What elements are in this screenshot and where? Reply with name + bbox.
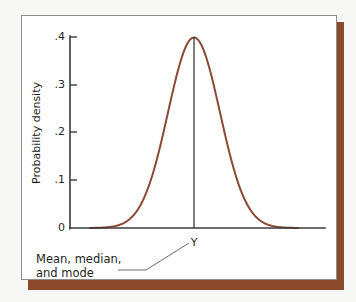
y-axis-title: Probability density xyxy=(30,82,43,184)
callout-leader-line xyxy=(118,243,189,270)
plot-canvas: .4 .3 .2 .1 0 Probability density Y Mean… xyxy=(0,0,356,302)
y-tick-label-1: .1 xyxy=(55,173,66,186)
y-tick-label-0: 0 xyxy=(58,221,65,234)
y-tick-label-2: .2 xyxy=(55,125,66,138)
callout-line-1: Mean, median, xyxy=(36,252,121,266)
figure-root: .4 .3 .2 .1 0 Probability density Y Mean… xyxy=(0,0,356,302)
callout-line-2: and mode xyxy=(36,266,94,280)
y-tick-label-3: .3 xyxy=(55,78,66,91)
center-marker-label: Y xyxy=(190,236,198,249)
y-tick-label-4: .4 xyxy=(55,30,66,43)
